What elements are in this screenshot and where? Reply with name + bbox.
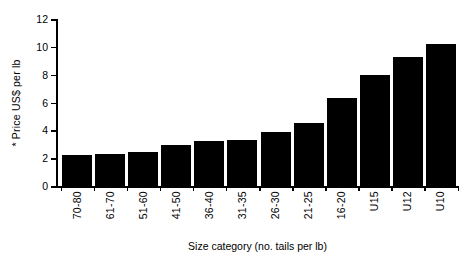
y-axis-tick-mark: [51, 19, 56, 21]
y-axis-tick-mark: [51, 158, 56, 160]
x-axis-tick-label: U12: [401, 191, 414, 235]
y-axis-tick-label: 8: [42, 69, 48, 80]
plot-area: [56, 19, 459, 186]
bar: [327, 98, 357, 186]
bar: [227, 140, 257, 186]
y-axis-tick-labels: 024681012: [26, 19, 48, 186]
bars-layer: [62, 19, 459, 186]
x-axis-title: Size category (no. tails per lb): [56, 240, 459, 253]
y-axis-tick-mark: [51, 75, 56, 77]
y-axis-tick-label: 2: [42, 153, 48, 164]
bar: [194, 141, 224, 186]
bar: [294, 123, 324, 186]
y-axis-tick-label: 6: [42, 97, 48, 108]
bar: [95, 154, 125, 186]
y-axis-line: [56, 19, 58, 187]
bar: [393, 57, 423, 186]
y-axis-tick-mark: [51, 130, 56, 132]
x-axis-tick-label: 31-35: [236, 191, 249, 235]
x-axis-tick-label: 21-25: [302, 191, 315, 235]
x-axis-line: [56, 186, 459, 188]
y-axis-title: * Price US$ per lb: [6, 15, 26, 191]
y-axis-tick-mark: [51, 47, 56, 49]
bar: [62, 155, 92, 186]
x-axis-tick-label: 41-50: [170, 191, 183, 235]
x-axis-tick-labels: 70-8061-7051-6041-5036-4031-3526-3021-25…: [62, 191, 459, 235]
bar: [360, 75, 390, 186]
bar-chart-figure: * Price US$ per lb 024681012 70-8061-705…: [0, 0, 474, 270]
bar: [161, 145, 191, 186]
x-axis-tick-label: 61-70: [104, 191, 117, 235]
y-axis-tick-label: 0: [42, 181, 48, 192]
y-axis-tick-mark: [51, 103, 56, 105]
y-axis-tick-label: 10: [36, 41, 48, 52]
bar: [128, 152, 158, 186]
x-axis-tick-label: 16-20: [335, 191, 348, 235]
bar: [261, 132, 291, 186]
y-axis-tick-label: 12: [36, 14, 48, 25]
x-axis-tick-label: 70-80: [71, 191, 84, 235]
y-axis-tick-label: 4: [42, 125, 48, 136]
x-axis-tick-label: 26-30: [269, 191, 282, 235]
x-axis-tick-label: U10: [434, 191, 447, 235]
x-axis-tick-label: U15: [368, 191, 381, 235]
y-axis-tick-mark: [51, 186, 56, 188]
bar: [426, 44, 456, 186]
x-axis-tick-label: 51-60: [137, 191, 150, 235]
x-axis-tick-label: 36-40: [203, 191, 216, 235]
